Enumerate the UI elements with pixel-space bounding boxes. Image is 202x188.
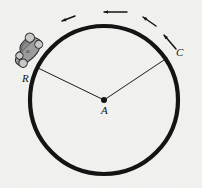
car-decal-label: 45	[26, 49, 30, 54]
circular-track-diagram: 45 ARC	[0, 0, 202, 188]
point-label-R: R	[21, 72, 29, 84]
center-point-dot	[101, 97, 107, 103]
point-label-C: C	[176, 46, 184, 58]
point-label-A: A	[100, 104, 108, 116]
diagram-canvas: 45 ARC	[0, 0, 202, 188]
